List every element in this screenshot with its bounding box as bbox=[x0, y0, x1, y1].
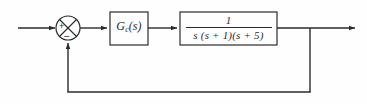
controller-label-argument: (s) bbox=[129, 19, 142, 33]
plant-denominator: s (s + 1)(s + 5) bbox=[181, 29, 276, 42]
plant-numerator: 1 bbox=[181, 14, 276, 26]
fraction-bar bbox=[186, 27, 272, 28]
controller-label-base: G bbox=[116, 19, 125, 33]
controller-block-label: Gc(s) bbox=[110, 19, 148, 34]
summing-junction-minus-sign: − bbox=[64, 32, 70, 41]
block-diagram: + − Gc(s) 1 s (s + 1)(s + 5) bbox=[0, 0, 367, 104]
summing-junction-plus-sign: + bbox=[59, 22, 64, 31]
plant-transfer-function: 1 s (s + 1)(s + 5) bbox=[181, 14, 276, 42]
